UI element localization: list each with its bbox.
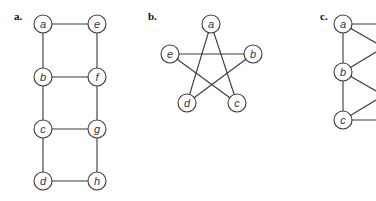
node-label: h bbox=[94, 175, 100, 187]
node-label: g bbox=[94, 123, 101, 135]
node-label: b bbox=[40, 71, 46, 83]
node-a: a bbox=[34, 15, 52, 33]
panel-label: c. bbox=[320, 10, 328, 22]
node-c: c bbox=[334, 111, 352, 129]
panel-label: b. bbox=[148, 10, 157, 22]
node-g: g bbox=[88, 120, 106, 138]
node-h: h bbox=[88, 172, 106, 190]
node-b: b bbox=[34, 68, 52, 86]
node-d: d bbox=[34, 172, 52, 190]
panel-b: b.aebdc bbox=[148, 10, 262, 112]
node-a: a bbox=[334, 15, 352, 33]
node-e: e bbox=[161, 45, 179, 63]
node-label: b bbox=[340, 66, 346, 78]
node-label: a bbox=[340, 18, 346, 30]
node-label: d bbox=[40, 175, 47, 187]
node-a: a bbox=[202, 15, 220, 33]
panel-label: a. bbox=[14, 10, 23, 22]
node-label: a bbox=[40, 18, 46, 30]
graph-figure: a.aebfcgdhb.aebdcc.abc bbox=[0, 0, 376, 201]
node-label: e bbox=[167, 48, 173, 60]
node-label: a bbox=[208, 18, 214, 30]
panel-c: c.abc bbox=[320, 10, 376, 129]
panel-a: a.aebfcgdh bbox=[14, 10, 106, 190]
node-d: d bbox=[178, 94, 196, 112]
node-label: c bbox=[340, 114, 346, 126]
edge-a-c bbox=[211, 24, 237, 103]
node-b: b bbox=[334, 63, 352, 81]
node-label: c bbox=[40, 123, 46, 135]
edge-e-c bbox=[170, 54, 237, 103]
node-c: c bbox=[228, 94, 246, 112]
edge-b-d bbox=[187, 54, 253, 103]
node-e: e bbox=[88, 15, 106, 33]
node-f: f bbox=[88, 68, 106, 86]
node-b: b bbox=[244, 45, 262, 63]
edge-a-d bbox=[187, 24, 211, 103]
node-label: e bbox=[94, 18, 100, 30]
node-label: b bbox=[250, 48, 256, 60]
node-label: d bbox=[184, 97, 191, 109]
node-c: c bbox=[34, 120, 52, 138]
node-label: c bbox=[234, 97, 240, 109]
